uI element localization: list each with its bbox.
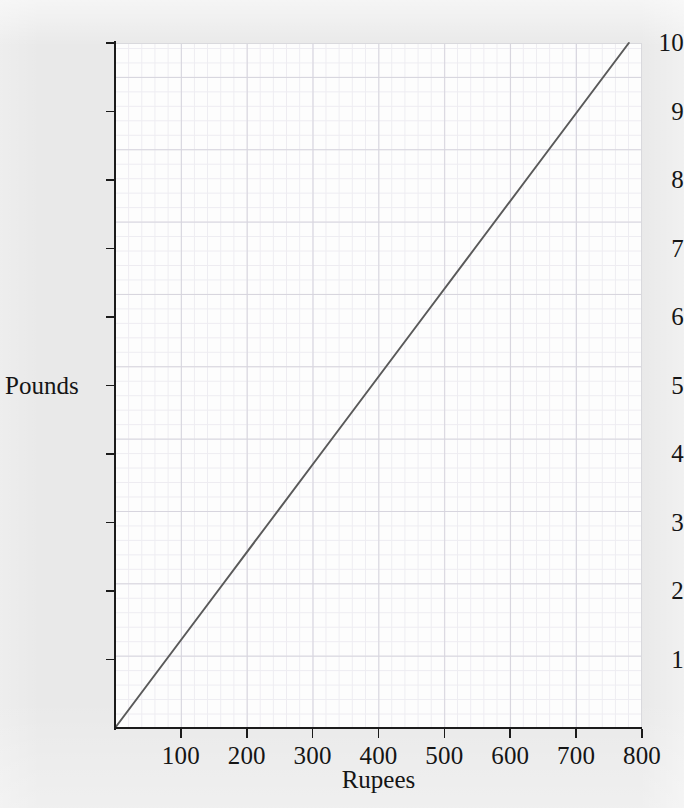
x-axis-tick-label: 500 (425, 742, 463, 770)
y-axis-tick-label: 2 (582, 577, 684, 605)
y-axis-tick-label: 5 (582, 372, 684, 400)
x-axis-tick (378, 729, 380, 738)
x-axis-tick (246, 729, 248, 738)
y-axis-tick-label: 3 (582, 509, 684, 537)
y-axis-tick (106, 42, 115, 44)
y-axis-tick-label: 1 (582, 646, 684, 674)
y-axis-tick-label: 10 (582, 29, 684, 57)
y-axis-tick (106, 179, 115, 181)
x-axis-tick-label: 300 (294, 742, 332, 770)
y-axis-tick-label: 9 (582, 98, 684, 126)
y-axis-tick-label: 4 (582, 440, 684, 468)
series-line-conversion (115, 43, 642, 728)
y-axis-tick (106, 522, 115, 524)
y-axis-tick (106, 453, 115, 455)
x-axis-tick (312, 729, 314, 738)
x-axis-tick-label: 100 (162, 742, 200, 770)
y-axis-tick (106, 659, 115, 661)
x-axis-title: Rupees (342, 766, 416, 794)
y-axis-tick (106, 316, 115, 318)
x-axis-tick-label: 600 (491, 742, 529, 770)
x-axis-tick (575, 729, 577, 738)
chart-page: 12345678910 100200300400500600700800 Pou… (0, 0, 684, 808)
x-axis-tick-label: 800 (623, 742, 661, 770)
x-axis-tick (641, 729, 643, 738)
x-axis-tick-label: 700 (557, 742, 595, 770)
y-axis-tick-label: 6 (582, 303, 684, 331)
y-axis-tick-label: 7 (582, 235, 684, 263)
y-axis-tick (106, 111, 115, 113)
y-axis-tick (106, 590, 115, 592)
y-axis-tick (106, 248, 115, 250)
y-axis-tick-label: 8 (582, 166, 684, 194)
y-axis-title: Pounds (5, 372, 79, 400)
plot-area (115, 43, 642, 728)
y-axis-tick (106, 385, 115, 387)
x-axis-tick-label: 200 (228, 742, 266, 770)
x-axis-tick (180, 729, 182, 738)
x-axis-tick (444, 729, 446, 738)
x-axis-tick (509, 729, 511, 738)
